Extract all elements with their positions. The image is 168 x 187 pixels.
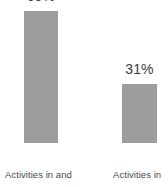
plot-area: 69% 31%: [0, 0, 168, 167]
category-axis: Activities in and Activities in: [0, 168, 168, 187]
bar-value-label-0: 69%: [27, 0, 55, 4]
bar-chart: 69% 31% Activities in and Activities in: [0, 0, 168, 187]
bar-0[interactable]: [24, 11, 58, 143]
category-label-0: Activities in and: [5, 168, 72, 181]
bar-1[interactable]: [122, 84, 157, 143]
category-label-1: Activities in: [113, 168, 161, 181]
bar-value-label-1: 31%: [125, 61, 153, 77]
